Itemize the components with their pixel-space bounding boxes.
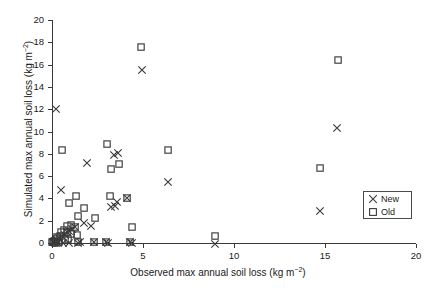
data-point-old	[338, 60, 339, 61]
data-point-old	[69, 203, 70, 204]
data-point-new	[142, 70, 143, 71]
y-tick	[48, 132, 52, 133]
data-point-old	[94, 242, 95, 243]
data-point-old	[95, 218, 96, 219]
y-tick	[48, 221, 52, 222]
x-tick-label: 10	[214, 250, 254, 261]
data-point-old	[110, 196, 111, 197]
x-tick	[416, 244, 417, 248]
x-tick-label: 20	[396, 250, 436, 261]
data-point-old	[84, 208, 85, 209]
cross-marker-icon	[367, 193, 380, 205]
legend-label-new: New	[380, 193, 399, 205]
y-axis-label-tail: )	[23, 41, 34, 44]
legend-label-old: Old	[380, 206, 395, 218]
x-tick	[143, 244, 144, 248]
y-axis-label-wrapper: Simulated max annual soil loss (kg m−2)	[22, 4, 36, 254]
y-tick	[48, 65, 52, 66]
data-point-new	[168, 182, 169, 183]
y-tick	[48, 42, 52, 43]
data-point-old	[127, 198, 128, 199]
data-point-old	[168, 150, 169, 151]
data-point-old	[55, 243, 56, 244]
data-point-new	[337, 128, 338, 129]
y-tick	[48, 198, 52, 199]
chart-legend[interactable]: New Old	[363, 191, 412, 219]
data-point-old	[77, 235, 78, 236]
scatter-chart-figure: 05101520 02468101214161820 Observed max …	[0, 0, 436, 292]
x-tick-label: 5	[123, 250, 163, 261]
data-point-new	[118, 153, 119, 154]
data-point-new	[91, 226, 92, 227]
x-tick	[325, 244, 326, 248]
x-tick-label: 15	[305, 250, 345, 261]
y-axis-label-exponent: −2	[22, 44, 29, 52]
data-point-old	[215, 236, 216, 237]
legend-item-new[interactable]: New	[367, 193, 399, 205]
y-axis-label: Simulated max annual soil loss (kg m−2)	[22, 4, 34, 254]
y-tick	[48, 154, 52, 155]
data-point-old	[132, 227, 133, 228]
legend-item-old[interactable]: Old	[367, 206, 395, 218]
data-point-new	[320, 211, 321, 212]
data-point-old	[119, 164, 120, 165]
data-point-old	[320, 168, 321, 169]
x-axis-label: Observed max annual soil loss (kg m−2)	[0, 266, 436, 278]
data-point-old	[78, 216, 79, 217]
data-point-old	[141, 47, 142, 48]
y-tick	[48, 176, 52, 177]
data-point-new	[61, 190, 62, 191]
x-axis-label-main: Observed max annual soil loss (kg m	[130, 267, 294, 278]
data-point-new	[56, 109, 57, 110]
data-point-new	[117, 202, 118, 203]
y-axis-line	[52, 20, 53, 243]
data-point-new	[87, 163, 88, 164]
data-point-old	[76, 196, 77, 197]
data-point-new	[84, 223, 85, 224]
data-point-old	[78, 242, 79, 243]
x-axis-label-tail: )	[302, 267, 305, 278]
data-point-old	[107, 144, 108, 145]
x-tick-label: 0	[32, 250, 72, 261]
y-tick	[48, 87, 52, 88]
data-point-old	[111, 169, 112, 170]
data-point-old	[68, 239, 69, 240]
data-point-new	[215, 244, 216, 245]
y-axis-label-main: Simulated max annual soil loss (kg m	[23, 52, 34, 217]
data-point-old	[130, 242, 131, 243]
data-point-old	[62, 150, 63, 151]
y-tick	[48, 20, 52, 21]
x-tick	[234, 244, 235, 248]
square-marker-icon	[367, 206, 380, 218]
data-point-old	[106, 242, 107, 243]
